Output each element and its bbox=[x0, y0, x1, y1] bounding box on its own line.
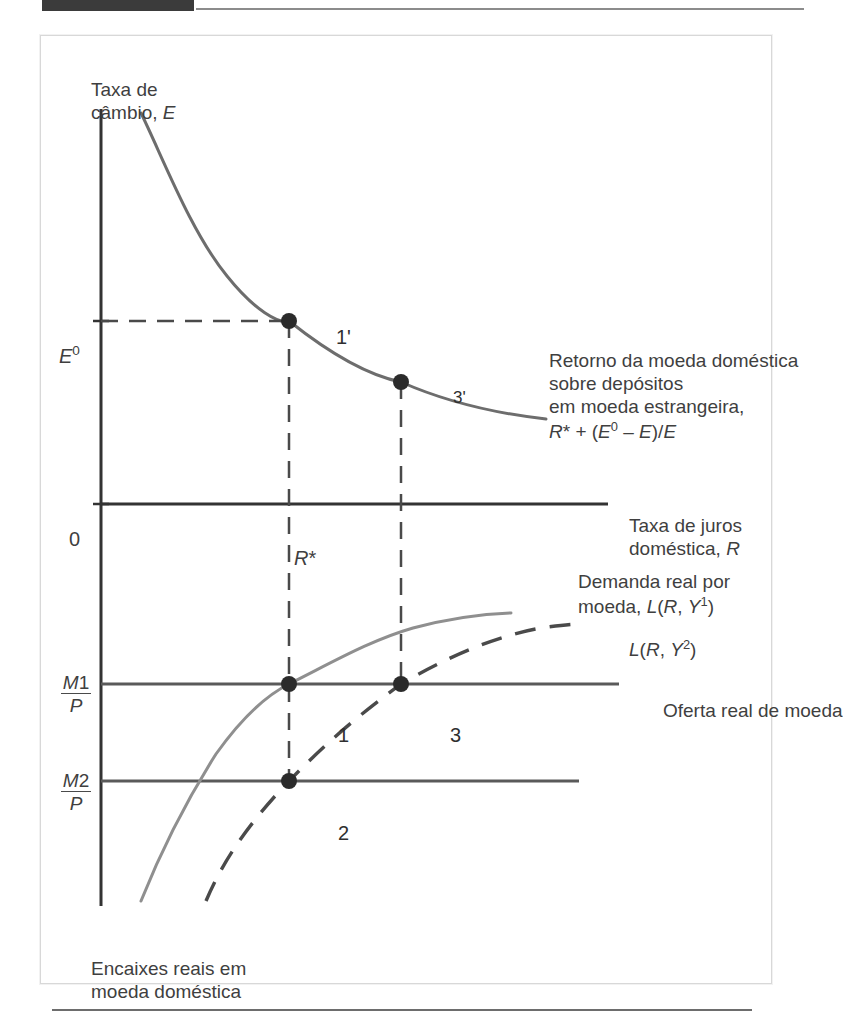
annotation-return-line3: em moeda estrangeira, bbox=[549, 396, 744, 417]
tick-label-m1-over-p: M1 P bbox=[53, 673, 99, 715]
annotation-x-axis-line1: Taxa de juros bbox=[629, 515, 742, 536]
annotation-return-line2: sobre depósitos bbox=[549, 373, 683, 394]
annotation-demand-line2: moeda, L(R, Y1) bbox=[578, 596, 714, 617]
marker-3-prime bbox=[393, 374, 409, 390]
annotation-x-axis-line2: doméstica, R bbox=[629, 538, 740, 559]
marker-2 bbox=[281, 773, 297, 789]
m1-fraction-bar bbox=[61, 693, 91, 694]
figure-frame: Taxa decâmbio, E Encaixes reais emmoeda … bbox=[40, 35, 772, 984]
marker-3 bbox=[393, 676, 409, 692]
annotation-return-formula: R* + (E0 – E)/E bbox=[549, 421, 676, 442]
marker-1 bbox=[281, 676, 297, 692]
tick-label-r-star: R* bbox=[294, 546, 316, 570]
m2-numerator: M2 bbox=[53, 771, 99, 791]
annotation-demand-line1: Demanda real por bbox=[578, 571, 730, 592]
point-label-2: 2 bbox=[338, 822, 349, 845]
tick-label-e0: E0 bbox=[59, 343, 80, 368]
m1-numerator: M1 bbox=[53, 673, 99, 693]
y-axis-label-top-line1: Taxa de bbox=[91, 79, 158, 100]
point-label-1-prime: 1' bbox=[336, 326, 351, 349]
annotation-return-line1: Retorno da moeda doméstica bbox=[549, 350, 798, 371]
tick-label-zero: 0 bbox=[69, 527, 80, 551]
tick-label-m2-over-p: M2 P bbox=[53, 771, 99, 813]
y-axis-label-top: Taxa decâmbio, E bbox=[91, 78, 176, 124]
return-curve bbox=[141, 113, 546, 419]
annotation-demand-shifted: L(R, Y2) bbox=[629, 637, 696, 662]
annotation-demand-curve: Demanda real pormoeda, L(R, Y1) bbox=[578, 570, 730, 618]
m2-fraction-bar bbox=[61, 791, 91, 792]
y-axis-label-bottom: Encaixes reais emmoeda doméstica bbox=[91, 957, 246, 1003]
figure-canvas: Taxa decâmbio, E Encaixes reais emmoeda … bbox=[41, 36, 771, 983]
page-header-bar bbox=[42, 0, 194, 11]
annotation-return-curve: Retorno da moeda domésticasobre depósito… bbox=[549, 349, 798, 443]
point-label-1: 1 bbox=[338, 724, 349, 747]
y-axis-label-bottom-line2: moeda doméstica bbox=[91, 981, 241, 1002]
m2-denominator: P bbox=[53, 793, 99, 813]
annotation-x-axis: Taxa de jurosdoméstica, R bbox=[629, 514, 742, 560]
point-label-3-prime: 3' bbox=[453, 388, 466, 408]
y-axis-label-top-line2: câmbio, E bbox=[91, 102, 176, 123]
page-header-rule bbox=[196, 8, 804, 10]
y-axis-label-bottom-line1: Encaixes reais em bbox=[91, 958, 246, 979]
m1-denominator: P bbox=[53, 695, 99, 715]
page-footer-rule bbox=[52, 1009, 752, 1011]
point-label-3: 3 bbox=[450, 724, 461, 747]
figure-graphics bbox=[41, 36, 771, 983]
marker-1-prime bbox=[281, 313, 297, 329]
annotation-money-supply: Oferta real de moeda bbox=[663, 699, 843, 722]
money-demand-curve-y2 bbox=[206, 624, 581, 901]
